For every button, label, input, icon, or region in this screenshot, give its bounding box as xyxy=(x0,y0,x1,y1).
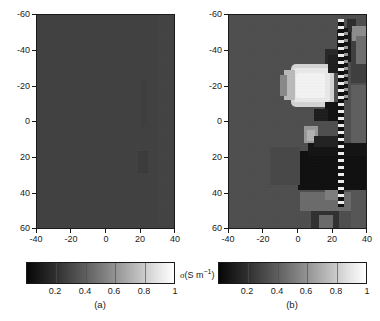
panel-b-ytick xyxy=(224,86,228,87)
panel-b-xtick xyxy=(332,229,333,233)
panel-a-heatmap xyxy=(37,15,174,228)
panel-a-xtick-label: 0 xyxy=(90,235,122,244)
panel-b-ytick xyxy=(224,14,228,15)
panel-b-label: (b) xyxy=(276,300,308,310)
panel-a-ytick xyxy=(32,121,36,122)
panel-b-ytick-label: 40 xyxy=(194,189,222,198)
panel-a-xtick xyxy=(174,229,175,233)
panel-a-xtick xyxy=(70,229,71,233)
colorbar-b-tick-label: 0.8 xyxy=(320,287,352,296)
panel-b-ytick xyxy=(224,50,228,51)
panel-a-ytick xyxy=(32,86,36,87)
panel-b-ytick-label: 0 xyxy=(194,117,222,126)
colorbar-a-unit-label: σ(S m−1) xyxy=(180,267,214,280)
panel-a-ytick xyxy=(32,193,36,194)
panel-b-xtick xyxy=(297,229,298,233)
colorbar-a-tick xyxy=(86,263,87,283)
panel-a-ytick-label: -40 xyxy=(2,46,30,55)
panel-b-heatmap xyxy=(229,15,366,228)
panel-a-xtick xyxy=(140,229,141,233)
panel-b-xtick-label: -20 xyxy=(247,235,279,244)
panel-a-xtick-label: -40 xyxy=(20,235,52,244)
panel-b-plot-area xyxy=(228,14,367,229)
panel-b-ytick-label: -20 xyxy=(194,82,222,91)
colorbar-unit-paren: ) xyxy=(211,270,214,280)
colorbar-b-tick xyxy=(278,263,279,283)
panel-b-xtick xyxy=(228,229,229,233)
colorbar-a-tick-label: 0.4 xyxy=(69,287,101,296)
colorbar-a-tick xyxy=(115,263,116,283)
panel-b-xtick xyxy=(366,229,367,233)
panel-a-ytick-label: 60 xyxy=(2,224,30,233)
colorbar-a-tick-label: 0.2 xyxy=(39,287,71,296)
panel-b-ytick-label: -40 xyxy=(194,46,222,55)
heatmap-noise-texture xyxy=(37,15,174,228)
colorbar-b xyxy=(218,262,367,284)
colorbar-b-tick xyxy=(248,263,249,283)
colorbar-b-tick-label: 1 xyxy=(351,287,380,296)
colorbar-unit-text: (S m xyxy=(184,270,203,280)
colorbar-b-tick-label: 0.6 xyxy=(290,287,322,296)
panel-a-ytick xyxy=(32,14,36,15)
heatmap-noise-texture xyxy=(229,15,366,228)
panel-a-xtick-label: 40 xyxy=(159,235,191,244)
panel-b-xtick-label: 40 xyxy=(351,235,380,244)
panel-a-ytick-label: 0 xyxy=(2,117,30,126)
colorbar-a xyxy=(26,262,175,284)
panel-b-xtick-label: 0 xyxy=(282,235,314,244)
panel-a-ytick-label: 20 xyxy=(2,153,30,162)
colorbar-b-tick-label: 0.4 xyxy=(261,287,293,296)
panel-a-ytick xyxy=(32,50,36,51)
colorbar-a-tick xyxy=(145,263,146,283)
colorbar-b-tick xyxy=(307,263,308,283)
panel-a-xtick-label: -20 xyxy=(55,235,87,244)
panel-b-ytick-label: 20 xyxy=(194,153,222,162)
figure-container: -60 -40 -20 0 20 40 60 -40 -20 0 20 40 xyxy=(0,0,380,321)
colorbar-a-tick-label: 1 xyxy=(159,287,191,296)
panel-a-plot-area xyxy=(36,14,175,229)
panel-b-ytick xyxy=(224,193,228,194)
colorbar-a-tick-label: 0.6 xyxy=(98,287,130,296)
panel-b-ytick-label: 60 xyxy=(194,224,222,233)
panel-b-ytick xyxy=(224,121,228,122)
panel-a-ytick-label: 40 xyxy=(2,189,30,198)
colorbar-a-tick-label: 0.8 xyxy=(128,287,160,296)
panel-a-ytick-label: -20 xyxy=(2,82,30,91)
panel-a-label: (a) xyxy=(84,300,116,310)
colorbar-a-tick xyxy=(56,263,57,283)
panel-b-xtick-label: -40 xyxy=(212,235,244,244)
panel-a-xtick xyxy=(36,229,37,233)
panel-b-xtick xyxy=(262,229,263,233)
panel-a-xtick xyxy=(105,229,106,233)
panel-b-ytick-label: -60 xyxy=(194,10,222,19)
panel-a-ytick-label: -60 xyxy=(2,10,30,19)
panel-a-xtick-label: 20 xyxy=(124,235,156,244)
panel-b-xtick-label: 20 xyxy=(316,235,348,244)
panel-a-ytick xyxy=(32,157,36,158)
colorbar-b-tick xyxy=(337,263,338,283)
colorbar-b-tick-label: 0.2 xyxy=(231,287,263,296)
panel-b-ytick xyxy=(224,157,228,158)
